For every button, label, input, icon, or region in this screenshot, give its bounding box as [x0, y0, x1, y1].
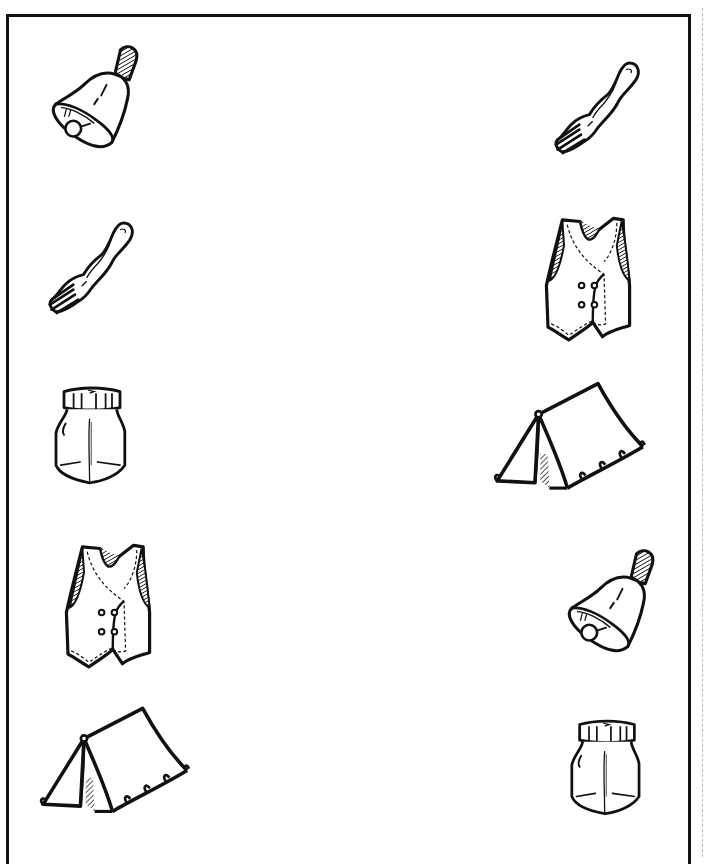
cut-line	[702, 8, 703, 857]
left-item-bell[interactable]: Bell	[40, 38, 145, 158]
right-item-bell[interactable]: Bell	[556, 542, 661, 662]
bell-icon	[556, 542, 661, 662]
right-item-tent[interactable]: Tent	[490, 376, 652, 494]
tent-icon	[36, 700, 196, 818]
left-item-tent[interactable]: Tent	[36, 700, 196, 818]
left-item-fork[interactable]: Fork	[40, 218, 140, 318]
jar-icon	[48, 378, 136, 490]
tent-icon	[490, 376, 652, 494]
right-item-fork[interactable]: Fork	[546, 58, 646, 158]
fork-icon	[546, 58, 646, 158]
bell-icon	[40, 38, 145, 158]
left-item-vest[interactable]: Vest	[60, 532, 156, 677]
left-item-jar[interactable]: Jar	[48, 378, 136, 490]
fork-icon	[40, 218, 140, 318]
vest-icon	[540, 205, 636, 350]
vest-icon	[60, 532, 156, 677]
right-item-vest[interactable]: Vest	[540, 205, 636, 350]
jar-icon	[564, 710, 650, 822]
right-item-jar[interactable]: Jar	[564, 710, 650, 822]
